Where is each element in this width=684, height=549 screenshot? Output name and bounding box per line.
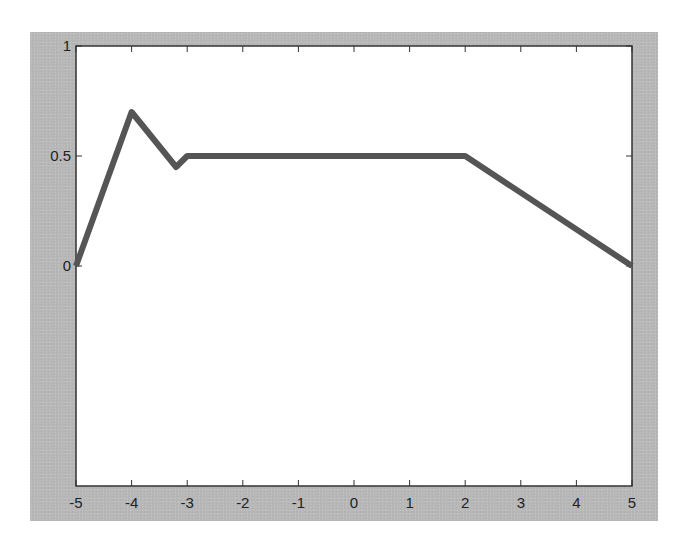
y-tick-label: 1 — [63, 37, 71, 54]
x-tick-label: 3 — [517, 494, 525, 511]
y-tick-label: 0 — [63, 257, 71, 274]
x-tick-label: 1 — [405, 494, 413, 511]
line-chart: -5-4-3-2-101234500.51 — [0, 0, 684, 549]
x-tick-label: -2 — [236, 494, 249, 511]
x-tick-label: -3 — [181, 494, 194, 511]
plot-area — [76, 46, 632, 486]
x-tick-label: 5 — [628, 494, 636, 511]
x-tick-label: 0 — [350, 494, 358, 511]
y-tick-label: 0.5 — [50, 147, 71, 164]
x-tick-label: -4 — [125, 494, 138, 511]
x-tick-label: -5 — [69, 494, 82, 511]
x-tick-label: -1 — [292, 494, 305, 511]
x-tick-label: 2 — [461, 494, 469, 511]
x-tick-label: 4 — [572, 494, 580, 511]
